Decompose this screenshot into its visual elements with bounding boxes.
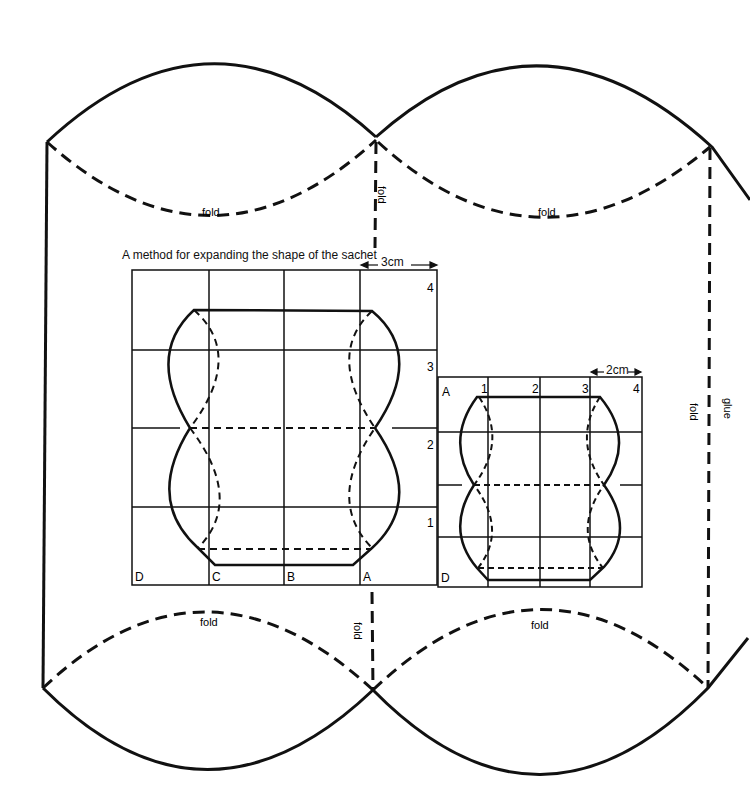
fold-label-top-right: fold (538, 206, 556, 218)
col-label-c: C (212, 570, 221, 584)
small-col-3: 3 (582, 382, 589, 396)
small-corner-d: D (441, 571, 450, 585)
sachet-template-diagram (0, 0, 750, 808)
col-label-b: B (287, 570, 295, 584)
fold-label-top-left: fold (202, 206, 220, 218)
small-col-a: A (442, 385, 450, 399)
small-grid-dimension: 2cm (606, 363, 629, 377)
bottom-left-arc (43, 688, 373, 770)
fold-label-bottom-right: fold (531, 619, 549, 631)
bottom-right-arc (373, 638, 748, 775)
right-vertical-fold (708, 148, 710, 688)
fold-label-vertical-bottom: fold (352, 622, 364, 640)
top-left-fold (47, 140, 376, 216)
glue-label: glue (722, 398, 734, 419)
top-left-arc (47, 64, 376, 142)
fold-label-vertical-top: fold (376, 186, 388, 204)
left-edge (43, 142, 47, 688)
large-grid-dimension: 3cm (381, 255, 404, 269)
col-label-d: D (135, 570, 144, 584)
small-col-4: 4 (633, 382, 640, 396)
row-label-1: 1 (427, 516, 434, 530)
small-col-2: 2 (532, 382, 539, 396)
fold-label-vertical-right: fold (688, 403, 700, 421)
large-grid (132, 270, 437, 585)
row-label-2: 2 (427, 438, 434, 452)
row-label-4: 4 (427, 281, 434, 295)
inset-title: A method for expanding the shape of the … (122, 248, 377, 262)
center-vertical-fold-bottom (372, 592, 373, 690)
small-col-1: 1 (481, 382, 488, 396)
row-label-3: 3 (427, 360, 434, 374)
top-right-arc (376, 66, 750, 200)
fold-label-bottom-left: fold (200, 616, 218, 628)
col-label-a: A (363, 570, 371, 584)
